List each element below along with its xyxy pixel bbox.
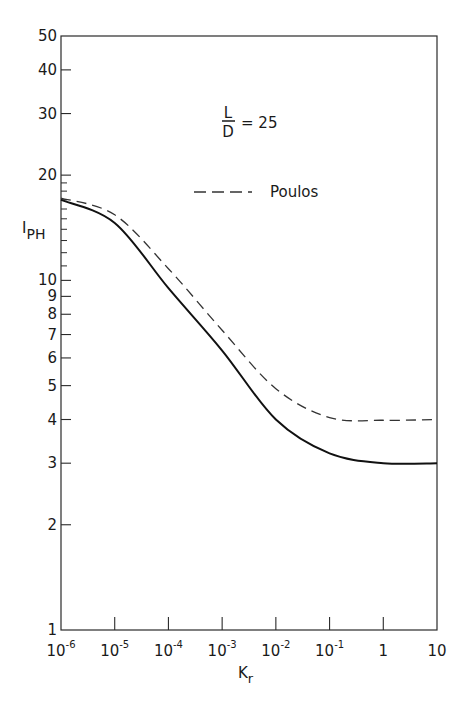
y-tick-label: 4 — [47, 411, 57, 429]
y-tick-label: 7 — [47, 326, 57, 344]
y-axis-label: IPH — [22, 219, 45, 242]
solution-curve — [61, 200, 437, 464]
ld-annotation: L D = 25 — [222, 104, 277, 141]
y-tick-label: 30 — [38, 105, 57, 123]
x-tick-label: 10-5 — [100, 639, 129, 660]
x-tick-label: 10-1 — [315, 639, 344, 660]
y-label-sub: PH — [26, 226, 45, 242]
y-tick-label: 40 — [38, 61, 57, 79]
fraction-numerator: L — [224, 104, 233, 122]
x-label-sub: r — [248, 671, 254, 686]
y-axis: 1234567891020304050 — [38, 27, 71, 639]
y-tick-label: 2 — [47, 516, 57, 534]
ld-value: = 25 — [241, 114, 277, 132]
legend-label-poulos: Poulos — [270, 183, 319, 201]
x-tick-label: 10-6 — [46, 639, 75, 660]
x-axis-label: Kr — [238, 664, 254, 686]
y-tick-label: 5 — [47, 377, 57, 395]
y-tick-label: 8 — [47, 305, 57, 323]
y-tick-label: 10 — [38, 271, 57, 289]
y-tick-label: 1 — [47, 621, 57, 639]
y-tick-label: 20 — [38, 166, 57, 184]
svg-text:Kr: Kr — [238, 664, 254, 686]
plot-area — [61, 198, 437, 464]
x-tick-label: 10 — [427, 642, 446, 660]
x-tick-label: 10-2 — [261, 639, 290, 660]
x-axis: 10-610-510-410-310-210-1110 — [46, 617, 446, 660]
y-tick-label: 50 — [38, 27, 57, 45]
y-tick-label: 3 — [47, 454, 57, 472]
x-tick-label: 10-4 — [154, 639, 183, 660]
chart: 1234567891020304050 10-610-510-410-310-2… — [0, 0, 476, 709]
svg-text:IPH: IPH — [22, 219, 45, 242]
y-tick-label: 9 — [47, 287, 57, 305]
x-tick-label: 10-3 — [208, 639, 237, 660]
x-tick-label: 1 — [379, 642, 389, 660]
y-tick-label: 6 — [47, 349, 57, 367]
legend: Poulos — [194, 183, 319, 201]
fraction-denominator: D — [222, 123, 234, 141]
